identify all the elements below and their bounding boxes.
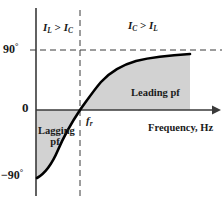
y-tick-label-minus-90deg: −90° [1,168,23,181]
plot-canvas [0,0,224,202]
annotation-leading-pf: Leading pf [131,87,180,98]
x-marker-label-fr: fr [86,115,93,128]
phase-angle-frequency-figure: 90° 0 −90° IL > IC IC > IL Lagging pf Le… [0,0,224,202]
y-tick-label-90deg: 90° [3,42,18,55]
annotation-lagging-pf: Lagging pf [38,125,72,147]
y-tick-label-0: 0 [22,101,29,115]
region-label-inductive: IL > IC [43,22,73,35]
x-axis-label: Frequency, Hz [148,122,213,133]
x-axis-arrowhead [212,106,221,115]
region-label-capacitive: IC > IL [128,20,158,33]
